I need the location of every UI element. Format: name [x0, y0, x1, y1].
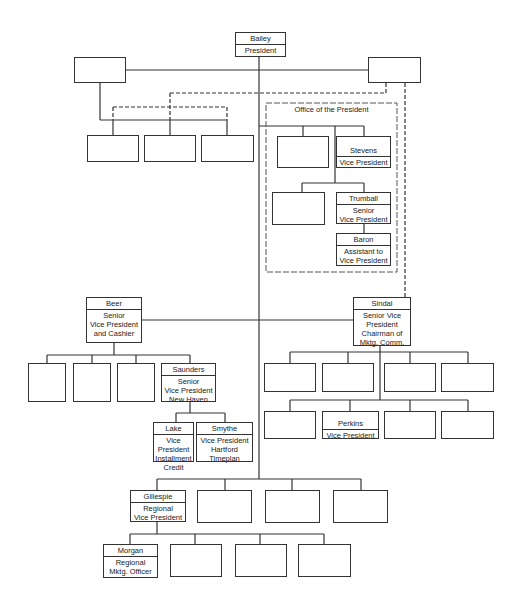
empty-node	[272, 192, 325, 225]
connector-lines	[0, 0, 520, 603]
node-title: Senior Vice President New Haven	[162, 376, 215, 405]
node-saunders: Saunders Senior Vice President New Haven	[161, 363, 216, 402]
node-sindal: Sindal Senior Vice President Chairman of…	[353, 297, 411, 346]
org-chart: Office of the President Bailey President…	[0, 0, 520, 603]
empty-node	[144, 135, 196, 162]
empty-node	[170, 544, 222, 577]
node-title: President	[236, 45, 285, 56]
node-title: Vice President	[337, 157, 390, 168]
node-title: Vice President Installment Credit	[154, 435, 193, 473]
node-lake: Lake Vice President Installment Credit	[153, 422, 194, 462]
node-name: Perkins	[323, 418, 378, 430]
empty-node	[322, 363, 374, 392]
node-bailey: Bailey President	[235, 32, 286, 57]
node-title: Senior Vice President and Cashier	[87, 310, 141, 339]
node-beer: Beer Senior Vice President and Cashier	[86, 297, 142, 343]
empty-node	[74, 57, 126, 83]
node-name: Gillespie	[131, 491, 185, 503]
node-name: Bailey	[236, 33, 285, 45]
node-trumball: Trumball Senior Vice President	[336, 192, 391, 224]
empty-node	[28, 363, 66, 402]
node-gillespie: Gillespie Regional Vice President	[130, 490, 186, 522]
empty-node	[384, 411, 436, 439]
node-title: Senior Vice President Chairman of Mktg. …	[354, 310, 410, 348]
node-name: Trumball	[337, 193, 390, 205]
empty-node	[384, 363, 436, 392]
node-perkins: Perkins Vice President	[322, 411, 379, 439]
empty-node	[298, 544, 351, 577]
node-title: Assistant to Vice President	[337, 246, 390, 266]
node-name: Lake	[154, 423, 193, 435]
empty-node	[87, 135, 139, 162]
empty-node	[441, 363, 494, 392]
node-title: Vice President	[323, 430, 378, 441]
empty-node	[277, 136, 329, 168]
empty-node	[264, 411, 316, 439]
node-name: Sindal	[354, 298, 410, 310]
node-title: Regional Mktg. Officer	[104, 557, 157, 577]
node-name: Beer	[87, 298, 141, 310]
empty-node	[265, 490, 320, 523]
empty-node	[333, 490, 388, 523]
empty-node	[441, 411, 494, 439]
empty-node	[264, 363, 316, 392]
node-name: Saunders	[162, 364, 215, 376]
node-stevens: Stevens Vice President	[336, 136, 391, 168]
empty-node	[73, 363, 111, 402]
node-morgan: Morgan Regional Mktg. Officer	[103, 544, 158, 578]
node-baron: Baron Assistant to Vice President	[336, 233, 391, 266]
office-of-president-label: Office of the President	[266, 105, 397, 114]
empty-node	[197, 490, 252, 523]
node-name: Smythe	[197, 423, 252, 435]
node-title: Senior Vice President	[337, 205, 390, 225]
node-title: Regional Vice President	[131, 503, 185, 523]
node-title: Vice President Hartford Timeplan	[197, 435, 252, 464]
node-name: Stevens	[337, 145, 390, 157]
node-smythe: Smythe Vice President Hartford Timeplan	[196, 422, 253, 462]
node-name: Baron	[337, 234, 390, 246]
empty-node	[201, 135, 254, 162]
empty-node	[117, 363, 155, 402]
empty-node	[368, 57, 421, 83]
empty-node	[235, 544, 287, 577]
node-name: Morgan	[104, 545, 157, 557]
